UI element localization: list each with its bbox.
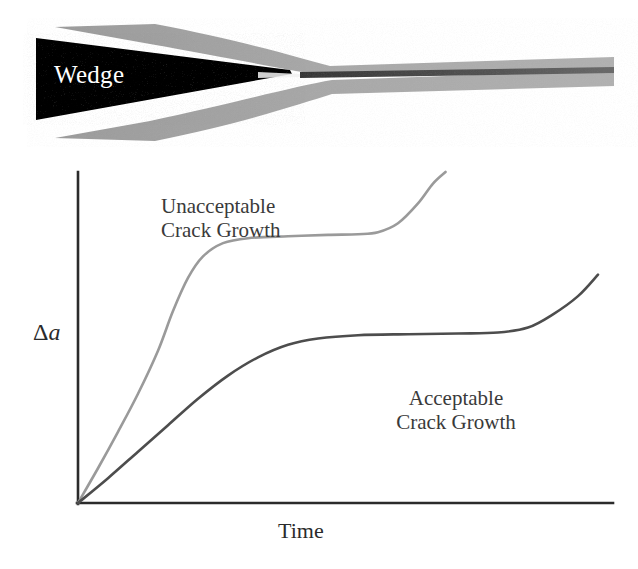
y-axis-label-delta: Δ xyxy=(33,319,48,345)
chart-axes xyxy=(77,172,613,504)
y-axis-label-variable: a xyxy=(48,319,60,345)
annotation-acceptable-line1: Acceptable xyxy=(409,386,503,410)
annotation-unacceptable-crack-growth: Unacceptable Crack Growth xyxy=(161,195,281,242)
annotation-unacceptable-line1: Unacceptable xyxy=(161,194,275,218)
wedge-label: Wedge xyxy=(54,61,124,89)
annotation-acceptable-crack-growth: Acceptable Crack Growth xyxy=(376,387,536,434)
chart-curves xyxy=(78,172,598,503)
annotation-acceptable-line2: Crack Growth xyxy=(396,410,516,434)
x-axis-label: Time xyxy=(278,519,324,544)
annotation-unacceptable-line2: Crack Growth xyxy=(161,218,281,242)
figure-root: Wedge Unacceptable Crack Growth Acceptab… xyxy=(0,0,638,569)
y-axis-label: Δa xyxy=(33,319,60,346)
